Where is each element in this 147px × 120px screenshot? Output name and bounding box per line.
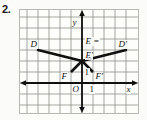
- y-axis-arrow-down: [79, 107, 85, 113]
- figure-frame: D E = E' D' F F' 1 O 1 x y: [19, 9, 139, 114]
- label-point-E-prime: E': [85, 51, 93, 60]
- label-unit-x: 1: [89, 85, 95, 94]
- label-unit-y: 1: [84, 68, 90, 77]
- x-axis-arrow-right: [132, 80, 138, 86]
- worksheet-page: 2.: [0, 0, 147, 120]
- label-axis-x: x: [126, 85, 131, 94]
- label-point-F: F: [61, 72, 68, 81]
- label-point-D: D: [30, 40, 38, 49]
- label-point-F-prime: F': [95, 72, 103, 81]
- label-point-D-prime: D': [118, 40, 127, 49]
- problem-number: 2.: [2, 3, 11, 15]
- label-point-E: E =: [85, 37, 100, 46]
- coordinate-plane-graphic: [20, 10, 138, 113]
- label-origin: O: [72, 85, 80, 94]
- x-axis-arrow-left: [20, 80, 26, 86]
- y-axis-arrow-up: [79, 10, 85, 16]
- label-axis-y: y: [72, 18, 77, 27]
